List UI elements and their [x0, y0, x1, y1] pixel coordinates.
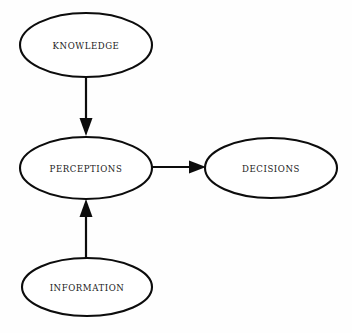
node-perceptions[interactable]: PERCEPTIONS — [20, 137, 152, 199]
arrowhead-down-icon — [80, 118, 93, 136]
diagram-canvas: KNOWLEDGE PERCEPTIONS DECISIONS INFORMAT… — [0, 0, 352, 333]
edge-perceptions-to-decisions — [152, 161, 206, 174]
arrowhead-right-icon — [189, 161, 206, 174]
node-decisions[interactable]: DECISIONS — [205, 138, 337, 198]
flow-diagram: KNOWLEDGE PERCEPTIONS DECISIONS INFORMAT… — [0, 0, 352, 333]
arrowhead-up-icon — [80, 199, 93, 217]
edge-knowledge-to-perceptions — [80, 77, 93, 136]
edge-information-to-perceptions — [80, 199, 93, 258]
node-knowledge[interactable]: KNOWLEDGE — [20, 13, 152, 77]
node-information-label: INFORMATION — [50, 283, 125, 293]
node-decisions-label: DECISIONS — [242, 164, 300, 174]
node-information[interactable]: INFORMATION — [22, 258, 152, 316]
node-knowledge-label: KNOWLEDGE — [53, 41, 120, 51]
node-perceptions-label: PERCEPTIONS — [50, 164, 123, 174]
